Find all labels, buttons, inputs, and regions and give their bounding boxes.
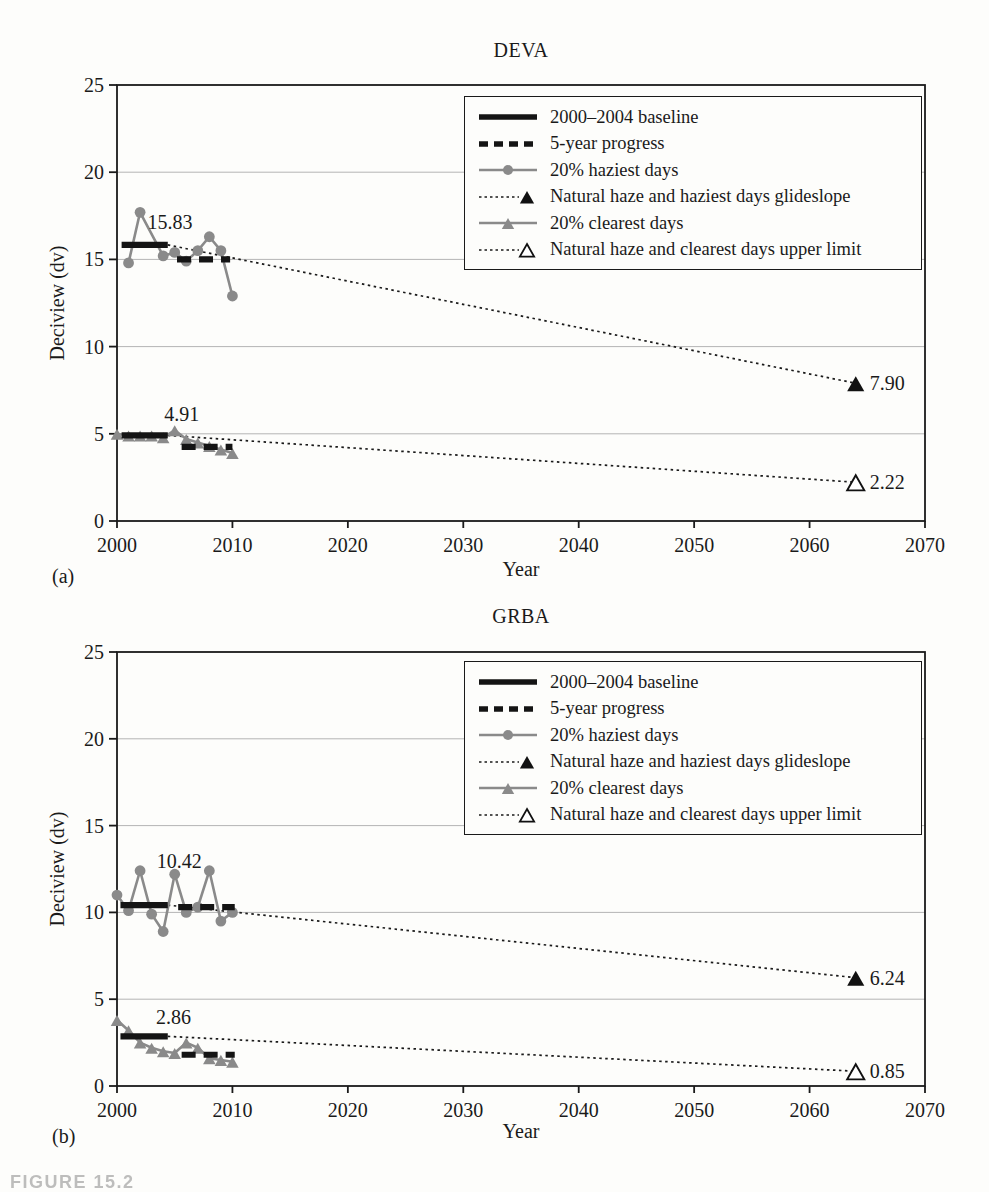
- legend-item-label: 2000–2004 baseline: [550, 672, 699, 693]
- svg-text:2070: 2070: [905, 534, 945, 556]
- svg-text:15: 15: [84, 248, 104, 270]
- legend-item-label: Natural haze and clearest days upper lim…: [550, 239, 861, 260]
- legend-item-label: 20% haziest days: [550, 160, 678, 181]
- panel-label-b: (b): [52, 1125, 75, 1148]
- y-axis-label-b: Deciview (dv): [46, 812, 69, 927]
- legend-item-label: 20% clearest days: [550, 778, 684, 799]
- svg-text:2000: 2000: [97, 1099, 137, 1121]
- svg-text:2040: 2040: [559, 534, 599, 556]
- legend-item: Natural haze and haziest days glideslope: [477, 749, 912, 776]
- svg-text:2020: 2020: [328, 1099, 368, 1121]
- legend-item: 20% haziest days: [477, 157, 912, 184]
- progress-legend-icon: [477, 133, 541, 155]
- svg-text:15: 15: [84, 815, 104, 837]
- svg-text:25: 25: [84, 74, 104, 96]
- legend-item: Natural haze and clearest days upper lim…: [477, 802, 912, 829]
- svg-text:2060: 2060: [790, 534, 830, 556]
- svg-text:2.22: 2.22: [870, 471, 905, 493]
- svg-text:10: 10: [84, 901, 104, 923]
- glideslope-legend-icon: [477, 751, 541, 773]
- svg-text:25: 25: [84, 641, 104, 663]
- svg-text:10.42: 10.42: [157, 850, 202, 872]
- svg-text:7.90: 7.90: [870, 372, 905, 394]
- svg-text:15.83: 15.83: [148, 211, 193, 233]
- legend-item-label: 5-year progress: [550, 698, 665, 719]
- legend-item: 2000–2004 baseline: [477, 669, 912, 696]
- svg-text:10: 10: [84, 336, 104, 358]
- legend-item: 20% haziest days: [477, 722, 912, 749]
- x-axis-label-b: Year: [117, 1120, 925, 1143]
- svg-text:6.24: 6.24: [870, 967, 905, 989]
- legend-item-label: 20% clearest days: [550, 213, 684, 234]
- svg-text:2050: 2050: [674, 1099, 714, 1121]
- svg-text:0.85: 0.85: [870, 1060, 905, 1082]
- baseline-legend-icon: [477, 106, 541, 128]
- legend-b: 2000–2004 baseline5-year progress20% haz…: [464, 661, 922, 835]
- svg-text:2070: 2070: [905, 1099, 945, 1121]
- svg-text:5: 5: [94, 423, 104, 445]
- figure-caption: FIGURE 15.2: [10, 1172, 135, 1192]
- legend-item: Natural haze and clearest days upper lim…: [477, 237, 912, 264]
- svg-text:20: 20: [84, 728, 104, 750]
- legend-item: 5-year progress: [477, 131, 912, 158]
- svg-text:2050: 2050: [674, 534, 714, 556]
- legend-item-label: 20% haziest days: [550, 725, 678, 746]
- legend-item: 5-year progress: [477, 696, 912, 723]
- legend-item-label: Natural haze and haziest days glideslope: [550, 186, 851, 207]
- panel-label-a: (a): [52, 565, 74, 588]
- clearest-legend-icon: [477, 777, 541, 799]
- haziest-legend-icon: [477, 724, 541, 746]
- y-axis-label-a: Deciview (dv): [46, 246, 69, 361]
- progress-legend-icon: [477, 698, 541, 720]
- legend-item: 2000–2004 baseline: [477, 104, 912, 131]
- legend-item: Natural haze and haziest days glideslope: [477, 184, 912, 211]
- svg-text:2010: 2010: [212, 1099, 252, 1121]
- svg-text:2030: 2030: [443, 1099, 483, 1121]
- glideslope-legend-icon: [477, 186, 541, 208]
- legend-item: 20% clearest days: [477, 210, 912, 237]
- svg-text:5: 5: [94, 988, 104, 1010]
- svg-text:2000: 2000: [97, 534, 137, 556]
- x-axis-label-a: Year: [117, 558, 925, 581]
- legend-item-label: 5-year progress: [550, 133, 665, 154]
- clearest-legend-icon: [477, 212, 541, 234]
- svg-text:0: 0: [94, 510, 104, 532]
- svg-text:2060: 2060: [790, 1099, 830, 1121]
- svg-text:2020: 2020: [328, 534, 368, 556]
- svg-text:2030: 2030: [443, 534, 483, 556]
- svg-text:0: 0: [94, 1075, 104, 1097]
- haziest-legend-icon: [477, 159, 541, 181]
- svg-text:2010: 2010: [212, 534, 252, 556]
- upperlimit-legend-icon: [477, 239, 541, 261]
- baseline-legend-icon: [477, 671, 541, 693]
- legend-a: 2000–2004 baseline5-year progress20% haz…: [464, 96, 922, 270]
- svg-text:2.86: 2.86: [156, 1006, 191, 1028]
- chart-title-a: DEVA: [117, 39, 925, 62]
- upperlimit-legend-icon: [477, 804, 541, 826]
- chart-title-b: GRBA: [117, 605, 925, 628]
- svg-text:2040: 2040: [559, 1099, 599, 1121]
- svg-text:20: 20: [84, 161, 104, 183]
- legend-item-label: 2000–2004 baseline: [550, 107, 699, 128]
- legend-item-label: Natural haze and clearest days upper lim…: [550, 804, 861, 825]
- legend-item: 20% clearest days: [477, 775, 912, 802]
- svg-text:4.91: 4.91: [164, 403, 199, 425]
- legend-item-label: Natural haze and haziest days glideslope: [550, 751, 851, 772]
